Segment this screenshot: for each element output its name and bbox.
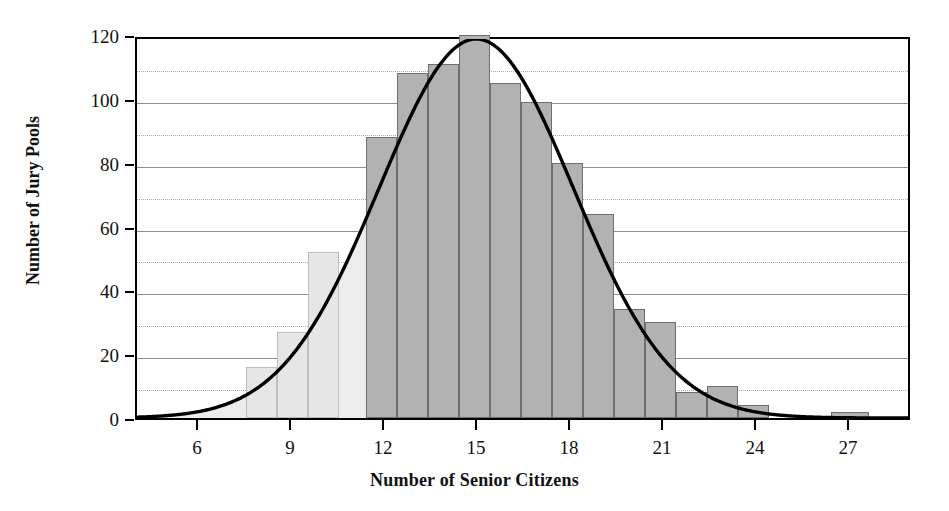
y-axis-tick-label: 100 <box>59 91 119 110</box>
x-axis-tick-label: 9 <box>260 438 320 457</box>
y-axis-tick-label: 80 <box>59 155 119 174</box>
x-axis-tick-label: 21 <box>632 438 692 457</box>
x-axis-tick-label: 27 <box>818 438 878 457</box>
x-axis-tick-mark <box>289 420 291 430</box>
x-axis-tick-label: 6 <box>167 438 227 457</box>
y-axis-tick-label: 120 <box>59 27 119 46</box>
y-axis-tick-mark <box>125 100 134 102</box>
x-axis-tick-mark <box>754 420 756 430</box>
y-axis-tick-label: 20 <box>59 346 119 365</box>
histogram-figure: Number of Jury Pools 020406080100120 691… <box>0 0 949 511</box>
y-axis-tick-label: 40 <box>59 282 119 301</box>
y-axis-tick-label: 0 <box>59 410 119 429</box>
normal-curve-overlay <box>137 39 908 418</box>
y-axis-tick-label: 60 <box>59 219 119 238</box>
x-axis-tick-mark <box>847 420 849 430</box>
x-axis-tick-label: 12 <box>353 438 413 457</box>
y-axis-tick-mark <box>125 291 134 293</box>
x-axis-title: Number of Senior Citizens <box>0 470 949 491</box>
y-axis-tick-mark <box>125 36 134 38</box>
x-axis-tick-label: 18 <box>539 438 599 457</box>
x-axis-tick-mark <box>661 420 663 430</box>
x-axis-tick-mark <box>475 420 477 430</box>
x-axis-tick-mark <box>568 420 570 430</box>
plot-area <box>135 37 910 420</box>
y-axis-tick-mark <box>125 164 134 166</box>
x-axis-tick-label: 24 <box>725 438 785 457</box>
x-axis-tick-mark <box>382 420 384 430</box>
normal-curve <box>137 39 908 418</box>
y-axis-tick-mark <box>125 419 134 421</box>
x-axis-tick-label: 15 <box>446 438 506 457</box>
y-axis-tick-mark <box>125 355 134 357</box>
y-axis-title: Number of Jury Pools <box>23 51 44 351</box>
x-axis-tick-mark <box>196 420 198 430</box>
y-axis-tick-mark <box>125 228 134 230</box>
